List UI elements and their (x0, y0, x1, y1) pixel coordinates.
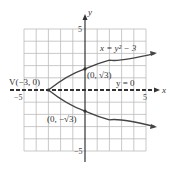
y-axis-arrow-icon (83, 14, 88, 20)
parabola-graph: y x 5 −5 −5 5 x = y² − 3 y = 0 V(−3, 0) … (0, 0, 172, 169)
x-axis-arrow-icon (154, 88, 160, 93)
lower-intercept-point (83, 110, 86, 113)
upper-intercept-label: (0, √3) (87, 70, 111, 80)
vertex-label: V(−3, 0) (9, 77, 40, 87)
equation-label: x = y² − 3 (99, 43, 137, 53)
curve-arrow-lower-icon (150, 124, 157, 129)
curve-arrow-upper-icon (150, 51, 157, 56)
x-tick-left: −5 (14, 93, 23, 102)
symmetry-label: y = 0 (116, 78, 135, 88)
y-tick-top: 5 (78, 25, 82, 34)
lower-intercept-label: (0, −√3) (47, 114, 77, 124)
vertex-point (47, 88, 50, 91)
x-tick-right: 5 (143, 93, 147, 102)
y-tick-bottom: −5 (74, 147, 83, 156)
y-axis-label: y (87, 7, 92, 17)
x-axis-label: x (161, 85, 166, 95)
